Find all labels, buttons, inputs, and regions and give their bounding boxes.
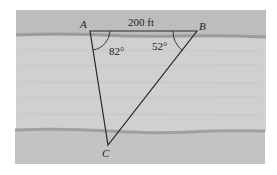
angle-a-value: 82° [109, 45, 124, 57]
bottom-bank [15, 131, 265, 164]
vertex-c-label: C [102, 147, 110, 159]
diagram-canvas: A B C 200 ft 82° 52° [0, 0, 277, 175]
side-ab-length: 200 ft [128, 16, 154, 28]
river-triangle-diagram: A B C 200 ft 82° 52° [0, 0, 277, 175]
vertex-b-label: B [199, 20, 206, 32]
angle-b-value: 52° [152, 40, 167, 52]
vertex-a-label: A [79, 18, 87, 30]
